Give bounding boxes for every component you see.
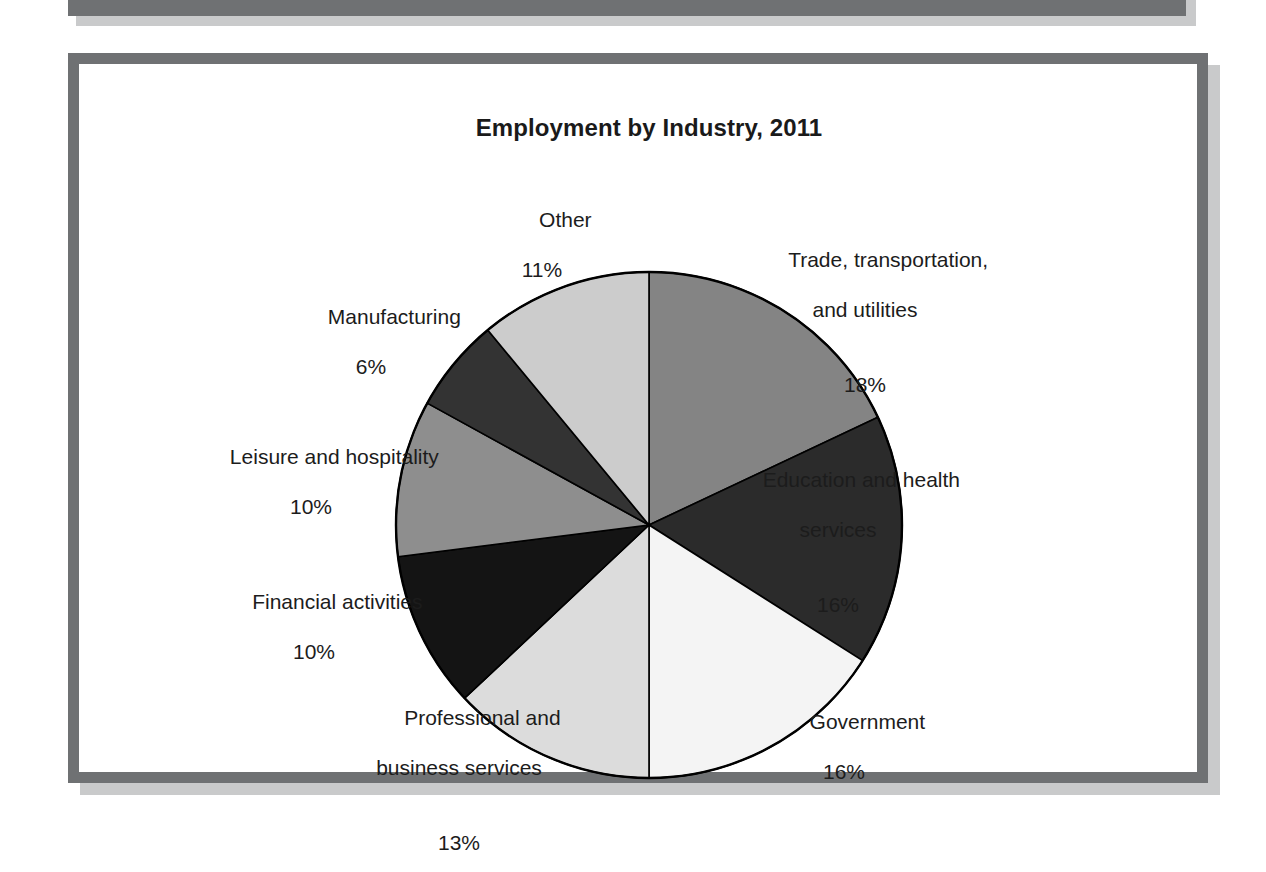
pie-label-manufacturing: Manufacturing 6% bbox=[251, 279, 491, 429]
pie-label-education-line1: Education and health bbox=[763, 468, 960, 491]
pie-label-trade-line1: Trade, transportation, bbox=[788, 248, 988, 271]
previous-frame-border bbox=[68, 0, 1186, 16]
pie-chart: Employment by Industry, 2011 Other 11% T… bbox=[79, 64, 1219, 794]
pie-label-government-percent: 16% bbox=[729, 759, 959, 784]
pie-label-government-name: Government bbox=[810, 710, 926, 733]
previous-frame-bottom-shadow bbox=[76, 16, 1196, 26]
previous-figure-frame-remnant bbox=[68, 0, 1196, 26]
pie-label-education-health-services: Education and health services 16% bbox=[693, 442, 983, 667]
pie-label-leisure-name: Leisure and hospitality bbox=[230, 445, 439, 468]
pie-label-professional-line2: business services bbox=[309, 755, 609, 780]
pie-label-leisure-percent: 10% bbox=[173, 494, 449, 519]
figure-border: Employment by Industry, 2011 Other 11% T… bbox=[68, 53, 1208, 783]
pie-label-manufacturing-name: Manufacturing bbox=[328, 305, 461, 328]
pie-label-leisure-hospitality: Leisure and hospitality 10% bbox=[173, 419, 449, 569]
pie-label-financial-name: Financial activities bbox=[252, 590, 422, 613]
pie-label-government: Government 16% bbox=[729, 684, 959, 834]
figure-frame: Employment by Industry, 2011 Other 11% T… bbox=[68, 53, 1220, 795]
pie-label-trade-transportation-utilities: Trade, transportation, and utilities 18% bbox=[715, 222, 1015, 447]
pie-label-professional-percent: 13% bbox=[309, 830, 609, 855]
pie-label-trade-line2: and utilities bbox=[715, 297, 1015, 322]
pie-label-manufacturing-percent: 6% bbox=[251, 354, 491, 379]
pie-label-other-name: Other bbox=[539, 208, 592, 231]
pie-label-education-line2: services bbox=[693, 517, 983, 542]
pie-label-education-percent: 16% bbox=[693, 592, 983, 617]
pie-label-financial-activities: Financial activities 10% bbox=[179, 564, 449, 714]
pie-label-trade-percent: 18% bbox=[715, 372, 1015, 397]
pie-label-financial-percent: 10% bbox=[179, 639, 449, 664]
